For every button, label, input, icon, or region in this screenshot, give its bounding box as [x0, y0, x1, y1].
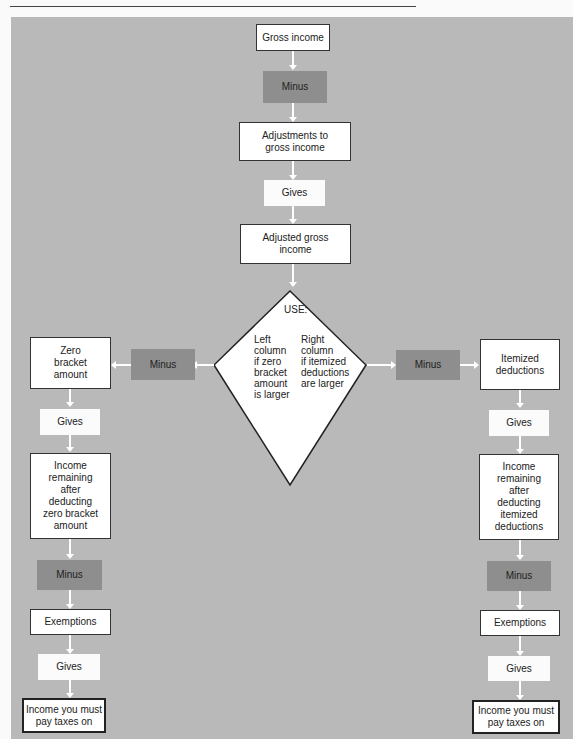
connector	[460, 364, 475, 366]
left-exemptions-box: Exemptions	[30, 609, 111, 635]
decision-title: USE:	[284, 304, 307, 315]
top-rule	[10, 6, 416, 7]
decision-right-text: Right column if itemized deductions are …	[301, 334, 349, 389]
arrow-down-icon	[66, 554, 74, 559]
connector	[115, 364, 131, 366]
connector	[367, 364, 393, 366]
left-minus-operator-2: Minus	[37, 560, 102, 590]
gives-operator: Gives	[264, 180, 325, 206]
zero-bracket-amount-box: Zero bracket amount	[30, 337, 111, 389]
connector	[519, 540, 521, 556]
adjusted-gross-income-box: Adjusted gross income	[240, 224, 351, 264]
right-income-remaining-box: Income remaining after deducting itemize…	[479, 454, 559, 540]
left-gives-operator: Gives	[40, 409, 100, 435]
arrow-down-icon	[289, 65, 297, 70]
right-minus-operator: Minus	[396, 350, 460, 380]
arrow-down-icon	[516, 403, 524, 408]
arrow-down-icon	[66, 402, 74, 407]
connector	[196, 364, 214, 366]
left-minus-operator: Minus	[131, 349, 195, 380]
decision-left-text: Left column if zero bracket amount is la…	[254, 334, 290, 400]
arrow-down-icon	[289, 282, 297, 287]
arrow-right-icon	[474, 361, 479, 369]
itemized-deductions-box: Itemized deductions	[480, 339, 560, 390]
left-taxable-income-box: Income you must pay taxes on	[22, 698, 106, 733]
right-gives-operator-2: Gives	[488, 656, 550, 681]
arrow-left-icon	[111, 361, 116, 369]
arrow-down-icon	[66, 447, 74, 452]
right-minus-operator-2: Minus	[487, 561, 551, 591]
gross-income-box: Gross income	[256, 24, 330, 51]
left-gives-operator-2: Gives	[38, 654, 100, 680]
right-taxable-income-box: Income you must pay taxes on	[472, 700, 560, 734]
arrow-down-icon	[516, 555, 524, 560]
adjustments-box: Adjustments to gross income	[239, 122, 351, 161]
right-gives-operator: Gives	[489, 410, 549, 436]
right-exemptions-box: Exemptions	[480, 610, 560, 636]
connector	[292, 264, 294, 284]
left-income-remaining-box: Income remaining after deducting zero br…	[30, 453, 111, 539]
minus-operator: Minus	[263, 71, 327, 103]
